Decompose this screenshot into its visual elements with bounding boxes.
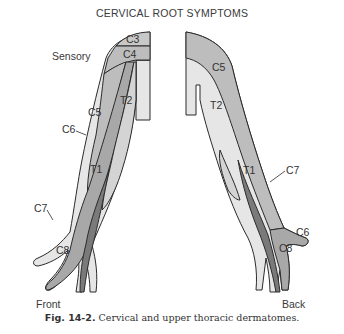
front-label-c4: C4 bbox=[123, 48, 137, 60]
dermatome-diagram: C3 C4 C5 T2 C6 T1 C7 C8 C5 T2 T1 C7 C6 C… bbox=[0, 0, 344, 334]
front-label-c7: C7 bbox=[34, 202, 48, 214]
front-c6-pointer bbox=[76, 131, 86, 135]
front-view-label: Front bbox=[36, 298, 61, 310]
front-t2-shoulder-region bbox=[136, 60, 150, 120]
back-label-t2: T2 bbox=[210, 99, 222, 111]
back-label-c5: C5 bbox=[212, 61, 226, 73]
back-arm: C5 T2 T1 C7 C6 C8 bbox=[186, 32, 310, 292]
back-label-t1: T1 bbox=[243, 164, 255, 176]
front-label-c3: C3 bbox=[126, 33, 140, 45]
front-label-c6: C6 bbox=[62, 123, 76, 135]
back-view-label: Back bbox=[282, 298, 305, 310]
back-c7-pointer bbox=[270, 171, 285, 182]
back-label-c8: C8 bbox=[279, 242, 293, 254]
back-label-c6: C6 bbox=[296, 226, 310, 238]
caption-text: Cervical and upper thoracic dermatomes. bbox=[96, 312, 300, 323]
front-arm: C3 C4 C5 T2 C6 T1 C7 C8 bbox=[34, 32, 151, 292]
front-label-c5: C5 bbox=[88, 106, 102, 118]
figure-caption: Fig. 14-2. Cervical and upper thoracic d… bbox=[0, 312, 344, 323]
front-label-t1: T1 bbox=[90, 163, 102, 175]
front-label-t2: T2 bbox=[120, 94, 132, 106]
front-c7-pointer bbox=[47, 210, 53, 220]
front-label-c8: C8 bbox=[56, 244, 70, 256]
caption-prefix: Fig. 14-2. bbox=[45, 312, 96, 323]
back-label-c7: C7 bbox=[286, 164, 300, 176]
